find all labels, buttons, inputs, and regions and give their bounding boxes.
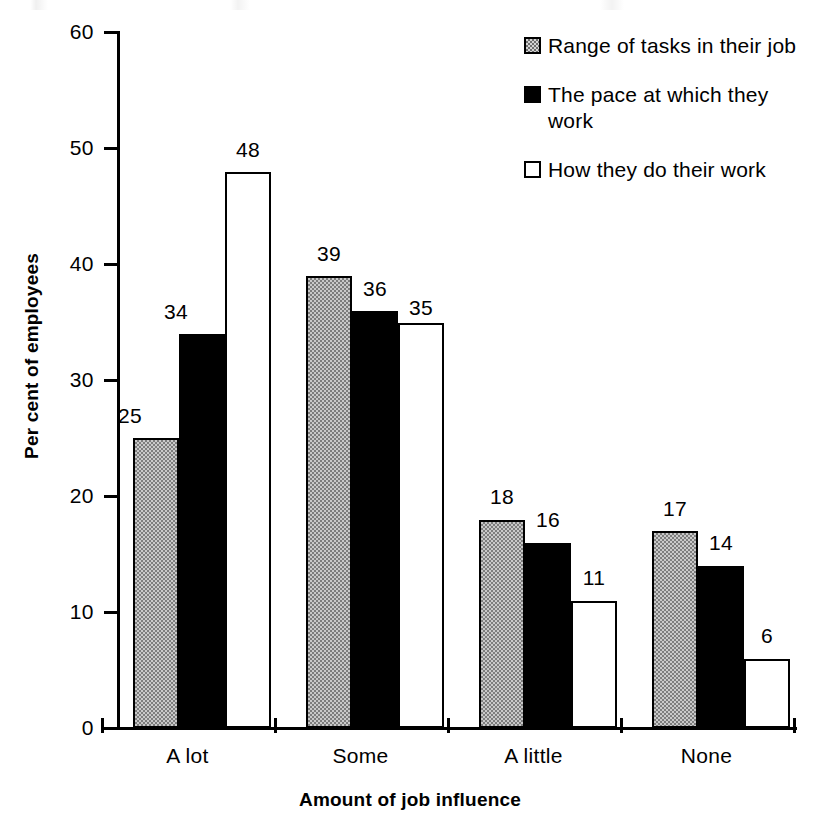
value-label-a-little-how-they-work: 11 [564,567,624,588]
bar-none-pace-of-work [698,566,744,728]
y-axis-tick-label-10: 10 [34,601,94,622]
value-label-a-lot-pace-of-work: 34 [146,301,206,322]
value-label-some-how-they-work: 35 [391,297,451,318]
x-axis-label-some: Some [274,745,447,767]
bar-some-range-of-tasks [306,276,352,728]
x-axis-title: Amount of job influence [0,789,820,811]
value-label-none-range-of-tasks: 17 [645,498,705,519]
legend-swatch-gray-icon [524,37,541,54]
bar-some-pace-of-work [352,311,398,728]
x-axis-tick-start [101,718,104,733]
bar-some-how-they-work [398,323,444,728]
value-label-some-pace-of-work: 36 [345,278,405,299]
y-axis-title: Per cent of employees [21,206,43,506]
legend-item-range-of-tasks: Range of tasks in their job [524,33,804,59]
legend-label-range-of-tasks: Range of tasks in their job [548,33,796,59]
scan-artifact [0,0,820,10]
x-axis-label-a-lot: A lot [101,745,274,767]
value-label-some-range-of-tasks: 39 [299,243,359,264]
bar-a-little-how-they-work [571,601,617,728]
value-label-a-little-range-of-tasks: 18 [472,486,532,507]
legend-label-pace-of-work: The pace at which they work [548,82,804,134]
bar-chart: 60 50 40 30 20 10 0 Per cent of employee… [0,0,820,822]
y-axis-tick-label-40: 40 [34,253,94,274]
value-label-none-pace-of-work: 14 [691,532,751,553]
legend-label-how-they-work: How they do their work [548,157,766,183]
value-label-none-how-they-work: 6 [737,625,797,646]
bar-a-lot-range-of-tasks [133,438,179,728]
legend-swatch-black-icon [524,86,541,103]
bar-a-little-range-of-tasks [479,520,525,729]
y-axis-tick-label-50: 50 [34,137,94,158]
y-axis-tick-label-60: 60 [34,21,94,42]
value-label-a-little-pace-of-work: 16 [518,509,578,530]
x-axis-label-a-little: A little [447,745,620,767]
y-axis-tick-label-0: 0 [34,717,94,738]
x-axis-label-none: None [620,745,793,767]
bar-a-lot-pace-of-work [179,334,225,728]
chart-legend: Range of tasks in their job The pace at … [524,33,804,206]
legend-swatch-white-icon [524,161,541,178]
bar-a-lot-how-they-work [225,172,271,728]
bar-none-range-of-tasks [652,531,698,728]
legend-item-how-they-work: How they do their work [524,157,804,183]
y-axis-tick-label-20: 20 [34,485,94,506]
y-axis-tick-label-30: 30 [34,369,94,390]
value-label-a-lot-range-of-tasks: 25 [100,405,160,426]
legend-item-pace-of-work: The pace at which they work [524,82,804,134]
bar-none-how-they-work [744,659,790,729]
value-label-a-lot-how-they-work: 48 [218,139,278,160]
